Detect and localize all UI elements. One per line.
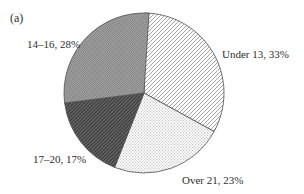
pie-slice-14-16 [64,13,149,103]
slice-label-17-20: 17–20, 17% [33,153,86,165]
slice-label-over-21: Over 21, 23% [182,174,243,186]
pie-chart-figure: (a) Under 13, 33% Over 21, [0,0,304,194]
pie-slices-group [64,13,224,173]
slice-label-under-13: Under 13, 33% [222,48,289,60]
slice-label-14-16: 14–16, 28% [27,38,80,50]
